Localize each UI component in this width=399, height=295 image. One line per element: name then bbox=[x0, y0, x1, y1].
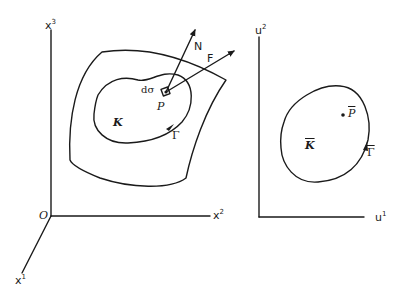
region-k-label: K bbox=[113, 117, 123, 128]
u1-axis-label: u1 bbox=[375, 211, 386, 223]
point-pbar-dot bbox=[341, 113, 345, 117]
right-axes bbox=[259, 37, 364, 217]
diagram-canvas: x3 x2 x1 O N F dσ P K Γ u2 u1 P K Γ bbox=[0, 0, 399, 295]
x1-axis bbox=[22, 216, 51, 273]
force-label: F bbox=[207, 53, 213, 64]
area-element-label: dσ bbox=[141, 85, 154, 95]
point-p-label: P bbox=[157, 101, 164, 112]
u2-axis-label: u2 bbox=[255, 24, 266, 36]
boundary-gammabar-label: Γ bbox=[367, 147, 375, 158]
normal-label: N bbox=[194, 41, 202, 52]
x2-axis-label: x2 bbox=[213, 209, 224, 221]
boundary-gamma-label: Γ bbox=[172, 130, 180, 141]
region-kbar-label: K bbox=[305, 140, 315, 151]
region-kbar-boundary bbox=[281, 86, 369, 182]
x3-axis-label: x3 bbox=[45, 19, 56, 31]
origin-label: O bbox=[39, 210, 48, 221]
left-axes bbox=[22, 30, 210, 273]
point-pbar-label: P bbox=[348, 108, 355, 119]
x1-axis-label: x1 bbox=[15, 274, 26, 286]
